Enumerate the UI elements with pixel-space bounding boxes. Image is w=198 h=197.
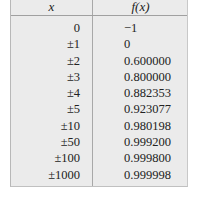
cell-x: ±5 [11,101,80,117]
table-row: ±1 0 [11,36,187,52]
cell-fx: −1 [124,20,137,36]
cell-fx: 0 [124,36,130,52]
cell-x: ±50 [11,134,80,150]
cell-fx: 0.999200 [124,134,171,150]
cell-x: ±1000 [11,167,80,183]
cell-fx: 0.600000 [124,53,171,69]
values-table: x f(x) 0 −1 ±1 0 ±2 0.600000 ±3 0.800000… [10,0,188,187]
cell-fx: 0.800000 [124,69,171,85]
cell-x: ±10 [11,118,80,134]
table-row: ±100 0.999800 [11,150,187,166]
cell-fx: 0.980198 [124,118,171,134]
table-row: ±4 0.882353 [11,85,187,101]
cell-fx: 0.999998 [124,167,171,183]
table-row: ±3 0.800000 [11,69,187,85]
table-row: ±10 0.980198 [11,118,187,134]
table-row: ±2 0.600000 [11,53,187,69]
table-row: 0 −1 [11,20,187,36]
table-row: ±5 0.923077 [11,101,187,117]
table-body: 0 −1 ±1 0 ±2 0.600000 ±3 0.800000 ±4 0.8… [11,20,187,183]
table-header-row: x f(x) [11,0,187,16]
cell-x: ±2 [11,53,80,69]
table-row: ±50 0.999200 [11,134,187,150]
cell-x: ±3 [11,69,80,85]
cell-fx: 0.882353 [124,85,171,101]
header-x: x [11,0,92,14]
cell-x: ±1 [11,36,80,52]
cell-x: ±4 [11,85,80,101]
header-fx: f(x) [93,0,188,14]
table-row: ±1000 0.999998 [11,167,187,183]
cell-x: ±100 [11,150,80,166]
cell-fx: 0.923077 [124,101,171,117]
cell-x: 0 [11,20,80,36]
cell-fx: 0.999800 [124,150,171,166]
